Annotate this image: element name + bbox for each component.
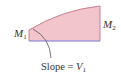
slope-subscript: 1 bbox=[83, 66, 87, 74]
label-slope: Slope = V1 bbox=[41, 62, 86, 74]
slope-prefix: Slope = bbox=[41, 61, 76, 72]
m2-subscript: 2 bbox=[112, 24, 116, 32]
m1-subscript: 1 bbox=[23, 33, 27, 41]
label-m1: M1 bbox=[14, 28, 27, 41]
m2-symbol: M bbox=[103, 18, 112, 30]
moment-diagram: M1 M2 Slope = V1 bbox=[0, 0, 121, 76]
m1-symbol: M bbox=[14, 27, 23, 39]
label-m2: M2 bbox=[103, 19, 116, 32]
